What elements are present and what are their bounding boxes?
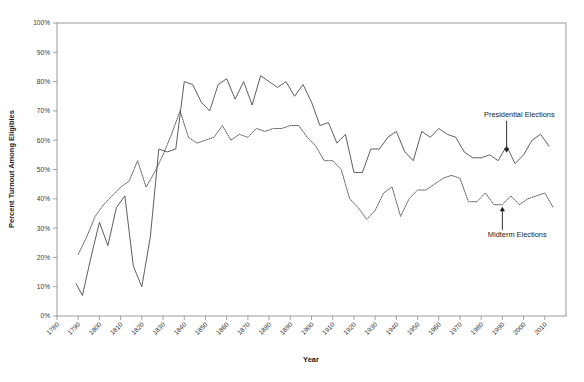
annotation-label-0: Presidential Elections	[484, 110, 555, 119]
x-axis-title: Year	[303, 355, 319, 364]
y-tick-label: 50%	[37, 166, 50, 173]
y-tick-label: 10%	[37, 283, 50, 290]
y-tick-label: 20%	[37, 254, 50, 261]
annotation-label-1: Midterm Elections	[488, 230, 547, 239]
y-tick-label: 90%	[37, 49, 50, 56]
y-tick-label: 80%	[37, 78, 50, 85]
y-tick-label: 30%	[37, 225, 50, 232]
y-tick-label: 70%	[37, 107, 50, 114]
y-tick-label: 60%	[37, 137, 50, 144]
y-tick-label: 100%	[33, 19, 50, 26]
y-tick-label: 0%	[40, 312, 50, 319]
turnout-chart: 0%10%20%30%40%50%60%70%80%90%100%1780179…	[0, 0, 584, 382]
y-axis-title: Percent Turnout Among Eligibles	[7, 110, 16, 228]
y-tick-label: 40%	[37, 195, 50, 202]
